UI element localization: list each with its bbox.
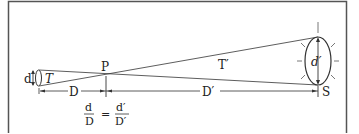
arrow-p-left <box>100 90 105 93</box>
label-P: P <box>101 60 109 74</box>
label-S: S <box>322 85 330 99</box>
eye-lens-ellipse <box>36 70 42 86</box>
ray-bottom-to-top <box>39 37 318 86</box>
label-d: d <box>24 72 32 86</box>
ray-top-to-bottom <box>39 70 318 85</box>
label-T-prime: T′ <box>218 58 229 72</box>
label-D-prime: D′ <box>202 85 215 99</box>
arrow-s <box>312 90 317 93</box>
formula-right-numerator: d′ <box>116 101 126 114</box>
arrow-p-right <box>107 90 112 93</box>
formula-left-numerator: d <box>85 101 92 114</box>
label-d-prime: d′ <box>311 55 322 69</box>
figure-frame <box>9 2 347 134</box>
label-T: T <box>45 72 54 86</box>
similar-triangles-diagram: d T P T′ d′ D D′ S d D = d′ D′ <box>0 0 359 133</box>
formula-equals: = <box>101 108 110 121</box>
formula-left-denominator: D <box>85 115 94 128</box>
label-D: D <box>69 85 79 99</box>
arrow-left-eye <box>40 90 45 93</box>
ratio-formula: d D = d′ D′ <box>84 101 129 128</box>
formula-right-denominator: D′ <box>115 115 127 128</box>
